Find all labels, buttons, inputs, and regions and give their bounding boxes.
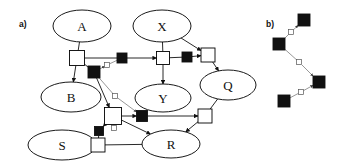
panel-a-edge-R-to-sq-s-open (105, 144, 142, 145)
panel-b-edge-b-bottom-to-b-tiny-3 (290, 93, 299, 98)
node-label-Q: Q (223, 78, 233, 93)
panel-a-edge-sq-a-open-to-sq-ab-filled (85, 64, 89, 67)
panel-a-sq-tiny-2[interactable] (113, 94, 118, 99)
panel-a-edge-X-to-sq-q-open (181, 38, 201, 51)
panel-a-sq-s-open[interactable] (91, 138, 105, 152)
panel-a-sq-hub-open[interactable] (105, 108, 122, 125)
panel-a-sq-mid-filled[interactable] (117, 53, 127, 63)
panel-a-edge-Q-to-sq-right-open (210, 99, 217, 109)
node-label-S: S (58, 138, 65, 153)
panel-a-edge-sq-ab-filled-to-sq-tiny-1 (100, 66, 105, 68)
panel-a-edge-sq-a-open-to-B (73, 66, 76, 83)
panel-a-sq-hub-filled[interactable] (137, 111, 148, 122)
panel-a-sq-ab-filled[interactable] (88, 66, 100, 78)
panel-b-label: b) (266, 19, 274, 29)
panel-a-edge-A-to-sq-a-open (78, 42, 79, 51)
node-label-R: R (167, 137, 176, 152)
panel-b-b-left[interactable] (273, 38, 285, 50)
node-label-Y: Y (158, 91, 168, 106)
panel-a-edge-sq-ab-filled-to-sq-tiny-2 (99, 78, 113, 94)
panel-b-b-top[interactable] (298, 14, 310, 26)
panel-a-nodes: AXBYQSR (28, 10, 256, 160)
panel-a-edge-sq-hub-open-to-R (122, 120, 151, 134)
panel-b-edge-b-left-to-b-tiny-1 (285, 35, 289, 39)
panel-b-b-bottom[interactable] (278, 95, 290, 107)
panel-a-sq-a-open[interactable] (70, 51, 85, 66)
panel-b-edge-b-tiny-3-to-b-right (304, 85, 314, 90)
graph-diagram: AXBYQSR a)b) (0, 0, 339, 167)
panel-a-edge-sq-right-open-to-R (186, 122, 198, 132)
panel-a-sq-right-open[interactable] (198, 109, 212, 123)
panel-b-edge-b-tiny-1-to-b-top (294, 26, 299, 30)
panel-a-edge-sq-tiny-1-to-sq-mid-filled (110, 60, 118, 64)
panel-b-b-tiny-2[interactable] (297, 60, 302, 65)
panel-a-sq-tiny-1[interactable] (105, 63, 110, 68)
panel-a-sq-low-filled[interactable] (95, 127, 104, 136)
panel-b-squares (273, 14, 325, 107)
node-label-A: A (77, 19, 87, 34)
panel-a-edge-sq-q-open-to-Q (213, 62, 219, 71)
panel-a-edge-sq-xq-filled-to-sq-q-open (192, 56, 201, 57)
panel-a-sq-tiny-3[interactable] (112, 126, 117, 131)
panel-b-b-right[interactable] (313, 76, 325, 88)
panel-a-sq-x-open[interactable] (157, 52, 170, 65)
node-label-B: B (67, 90, 76, 105)
node-label-X: X (157, 19, 167, 34)
panel-b-b-tiny-1[interactable] (289, 30, 294, 35)
panel-b-edge-b-left-to-b-tiny-2 (285, 49, 297, 59)
panel-a-sq-xq-filled[interactable] (182, 52, 192, 62)
figure-root: AXBYQSR a)b) (0, 0, 339, 167)
panel-a-label: a) (19, 19, 27, 29)
panel-a-edge-sq-x-open-to-sq-xq-filled (170, 57, 183, 58)
panel-b-b-tiny-3[interactable] (299, 90, 304, 95)
panel-a-sq-q-open[interactable] (201, 48, 215, 62)
panel-b-edge-b-tiny-2-to-b-right (302, 65, 314, 77)
